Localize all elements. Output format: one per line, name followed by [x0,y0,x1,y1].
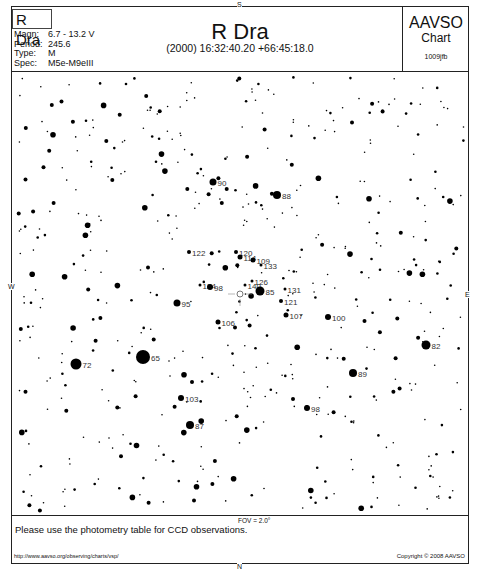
comparison-star [325,314,331,320]
comparison-star-label: 72 [83,361,92,370]
comparison-star [284,313,289,318]
comparison-star-label: 65 [151,354,160,363]
comparison-star [71,359,82,370]
comparison-star-label: 133 [264,262,278,271]
comparison-star [187,250,191,254]
comparison-star-label: 98 [311,405,320,414]
comparison-star-label: 85 [266,288,275,297]
comparison-star-label: 122 [192,249,206,258]
comparison-star [251,258,256,263]
comparison-star [216,320,221,325]
comparison-star-label: 121 [284,298,298,307]
fov-label: FOV = 2.0° [238,517,270,524]
org-subtitle: Chart [403,31,469,45]
comparison-star [186,421,194,429]
comparison-star-label: 89 [358,370,367,379]
star-info: Magn:6.7 - 13.2 V Period:245.6 Type:M Sp… [14,30,95,68]
comparison-star-label: 87 [195,422,204,431]
comparison-star [178,395,184,401]
comparison-star [207,284,213,290]
comparison-star [136,350,150,364]
aavso-logo-box: AAVSO Chart 1009jfb [402,6,469,72]
comparison-star [279,299,283,303]
star-name-box: R Dra [12,9,52,29]
comparison-star-label: 90 [218,179,227,188]
background-stars [17,76,465,512]
comparison-stars: 9088122120114109133126140124988513112195… [71,179,441,432]
star-field: 9088122120114109133126140124988513112195… [12,73,468,516]
comparison-star-label: 131 [288,286,302,295]
comparison-star [349,369,357,377]
comparison-star-label: 107 [290,312,304,321]
org-name: AAVSO [403,14,469,31]
comparison-star-label: 106 [222,319,236,328]
compass-south: S [237,1,242,8]
comparison-star-label: 100 [332,314,346,323]
comparison-star [260,264,263,267]
comparison-star-label: 88 [282,192,291,201]
comparison-star [244,284,247,287]
chart-id: 1009jfb [403,53,469,60]
chart-title: R Dra [150,20,330,44]
copyright: Copyright © 2008 AAVSO [397,553,465,559]
comparison-star-label: 82 [432,342,441,351]
chart-coordinates: (2000) 16:32:40.20 +66:45:18.0 [150,42,330,54]
comparison-star [210,179,217,186]
comparison-star [284,288,287,291]
comparison-star-label: 95 [182,300,191,309]
comparison-star [422,341,431,350]
comparison-star-label: 103 [185,395,199,404]
info-row-spec: Spec:M5e-M9eIII [14,59,95,69]
ccd-note: Please use the photometry table for CCD … [15,524,247,535]
comparison-star [238,255,243,260]
comparison-star [174,300,181,307]
comparison-star-label: 98 [214,284,223,293]
aavso-url-link[interactable]: http://www.aavso.org/observing/charts/vs… [14,553,119,559]
comparison-star [234,250,238,254]
comparison-star [256,287,265,296]
comparison-star [273,191,281,199]
compass-north: N [237,563,242,570]
comparison-star [304,405,310,411]
comparison-star [199,284,202,287]
variable-marker-icon [228,291,252,306]
